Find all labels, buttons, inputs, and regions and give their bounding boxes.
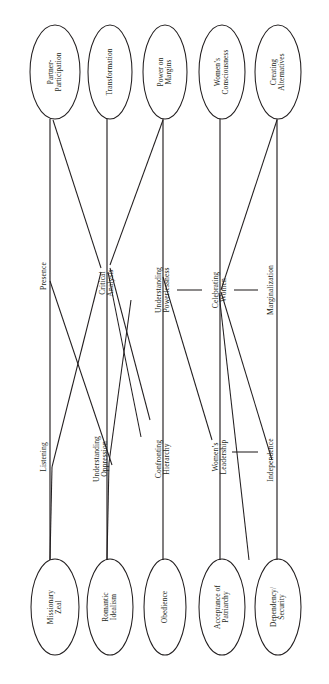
ellipse-partner-participation[interactable] <box>30 25 80 119</box>
tick-mark-group <box>177 290 258 452</box>
ellipse-power-on-margins[interactable] <box>143 25 187 119</box>
connector-c1 <box>163 277 212 440</box>
concept-diagram: Partner- Participation Transformation Po… <box>0 0 329 684</box>
connector-b4 <box>109 300 131 463</box>
connector-d1 <box>221 120 277 290</box>
ellipse-acceptance-of-patriarchy[interactable] <box>199 559 245 655</box>
ellipse-transformation[interactable] <box>88 25 132 119</box>
ellipse-womens-consciousness[interactable] <box>199 25 245 119</box>
ellipse-creating-alternatives[interactable] <box>255 25 301 119</box>
connector-b2 <box>110 268 150 420</box>
connector-a1 <box>53 120 101 268</box>
top-node-group <box>30 25 301 119</box>
ellipse-romantic-idealism[interactable] <box>87 559 133 655</box>
ellipse-obedience[interactable] <box>144 559 186 655</box>
connector-b1 <box>110 120 163 265</box>
connector-a3 <box>52 272 101 467</box>
ellipse-missionary-zeal[interactable] <box>31 559 79 655</box>
ellipse-dependency-security[interactable] <box>255 559 301 655</box>
connector-b3 <box>108 272 141 437</box>
diagram-canvas <box>0 0 329 684</box>
bottom-node-group <box>31 559 301 655</box>
